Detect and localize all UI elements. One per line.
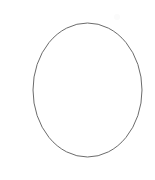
faint-speck-icon [114,14,120,20]
shape-layer [0,0,155,180]
canvas-background [0,0,155,180]
drawing-canvas [0,0,155,180]
